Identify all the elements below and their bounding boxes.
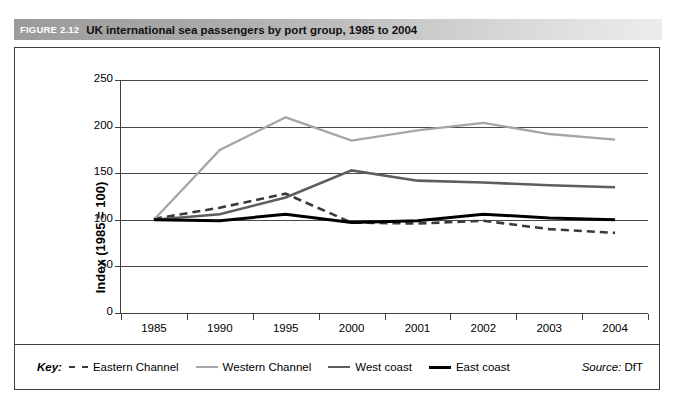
figure-container: FIGURE 2.12 UK international sea passeng… — [0, 0, 676, 408]
legend-item-label: East coast — [456, 361, 510, 373]
legend-item[interactable]: Western Channel — [196, 361, 312, 373]
legend-item-label: West coast — [355, 361, 412, 373]
source-label: Source: — [582, 361, 622, 373]
legend-swatch-icon — [328, 366, 350, 368]
figure-number-badge: FIGURE 2.12 — [14, 24, 86, 35]
legend-item[interactable]: Eastern Channel — [69, 361, 179, 373]
legend-item[interactable]: West coast — [328, 361, 412, 373]
legend-bar: Key: Eastern ChannelWestern ChannelWest … — [14, 345, 660, 390]
legend-items-container: Key: Eastern ChannelWestern ChannelWest … — [15, 345, 659, 389]
page-title: UK international sea passengers by port … — [86, 24, 417, 36]
figure-title-bar: FIGURE 2.12 UK international sea passeng… — [14, 19, 662, 40]
legend-item-label: Eastern Channel — [93, 361, 179, 373]
source-note: Source: DfT — [582, 361, 643, 373]
legend-swatch-icon — [429, 366, 451, 369]
chart-frame — [14, 47, 660, 345]
source-value: DfT — [624, 361, 643, 373]
legend-key-label: Key: — [37, 361, 62, 373]
legend-item[interactable]: East coast — [429, 361, 510, 373]
legend-item-label: Western Channel — [223, 361, 312, 373]
legend-swatch-icon — [69, 366, 88, 368]
legend-items: Eastern ChannelWestern ChannelWest coast… — [69, 361, 527, 373]
legend-swatch-icon — [196, 366, 218, 368]
